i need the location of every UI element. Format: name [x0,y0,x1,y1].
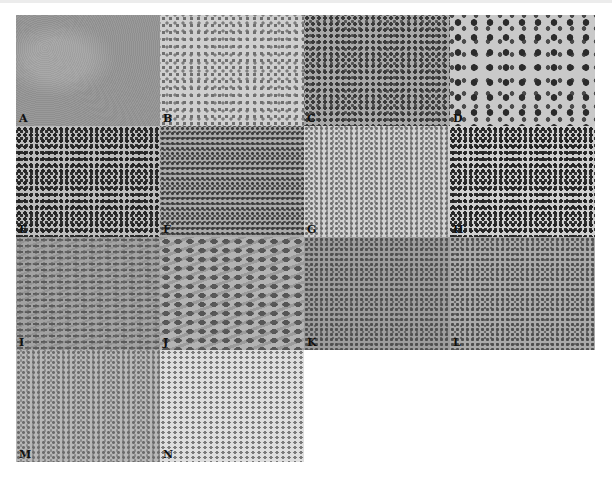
panel-label-k: K [307,337,317,348]
micrograph-i [16,237,160,350]
micrograph-m [16,350,160,462]
panel-label-b: B [163,113,172,124]
panel-label-a: A [19,113,28,124]
micrograph-n [160,350,304,462]
panel-c: C [304,15,450,126]
micrograph-j [160,237,304,350]
panel-h: H [450,126,595,237]
panel-i: I [16,237,160,350]
panel-label-l: L [453,337,461,348]
panel-label-n: N [163,449,173,460]
panel-m: M [16,350,160,462]
panel-label-c: C [307,113,316,124]
micrograph-g [304,126,450,237]
micrograph-h [450,126,595,237]
panel-l: L [450,237,595,350]
panel-label-e: E [19,224,27,235]
panel-label-j: J [163,337,168,348]
panel-k: K [304,237,450,350]
panel-label-f: F [163,224,171,235]
micrograph-f [160,126,304,237]
panel-label-h: H [453,224,463,235]
panel-d: D [450,15,595,126]
micrograph-l [450,237,595,350]
panel-b: B [160,15,304,126]
top-border [0,0,612,3]
panel-label-d: D [453,113,463,124]
micrograph-k [304,237,450,350]
panel-f: F [160,126,304,237]
panel-j: J [160,237,304,350]
panel-label-m: M [19,449,31,460]
micrograph-d [450,15,595,126]
micrograph-e [16,126,160,237]
panel-a: A [16,15,160,126]
micrograph-c [304,15,450,126]
panel-n: N [160,350,304,462]
micrograph-a [16,15,160,126]
panel-g: G [304,126,450,237]
micrograph-b [160,15,304,126]
panel-label-i: I [19,337,24,348]
panel-e: E [16,126,160,237]
panel-label-g: G [307,224,316,235]
